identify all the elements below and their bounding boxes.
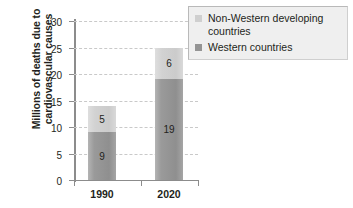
- legend-item-western[interactable]: Western countries: [195, 41, 341, 54]
- x-tick-end: [198, 180, 199, 186]
- legend-label-non-western: Non-Western developingcountries: [208, 12, 323, 37]
- bar-segment-1990-western[interactable]: 9: [88, 132, 116, 180]
- y-tick-label-5: 5: [56, 149, 62, 160]
- chart-container: Millions of deaths due to cardiovascular…: [0, 0, 353, 208]
- bar-segment-1990-non-western[interactable]: 5: [88, 106, 116, 133]
- bar-1990[interactable]: 9 5: [88, 106, 116, 180]
- y-tick-20: 20: [69, 74, 74, 75]
- legend-label-non-western-line1: Non-Western developing: [208, 12, 323, 24]
- legend-swatch-non-western-icon: [195, 15, 202, 22]
- chart-legend: Non-Western developingcountries Western …: [188, 6, 348, 60]
- legend-swatch-western-icon: [195, 44, 202, 51]
- y-tick-15: 15: [69, 101, 74, 102]
- gridline-30: [74, 21, 198, 22]
- x-tick-start: [74, 180, 75, 186]
- x-axis-label-2020: 2020: [157, 188, 180, 200]
- bar-segment-2020-non-western[interactable]: 6: [155, 48, 183, 80]
- y-tick-label-0: 0: [56, 176, 62, 187]
- y-tick-25: 25: [69, 48, 74, 49]
- y-axis-title-line1: Millions of deaths due to: [30, 9, 43, 130]
- y-tick-label-10: 10: [51, 123, 62, 134]
- legend-item-non-western[interactable]: Non-Western developingcountries: [195, 12, 341, 37]
- x-tick-middle: [141, 180, 142, 186]
- y-tick-10: 10: [69, 127, 74, 128]
- plot-area: 30 25 20 15 10 5 0 9 5: [74, 21, 198, 180]
- x-axis-label-1990: 1990: [90, 188, 113, 200]
- y-tick-label-15: 15: [51, 96, 62, 107]
- legend-label-non-western-line2: countries: [208, 25, 251, 37]
- y-tick-30: 30: [69, 21, 74, 22]
- y-tick-label-25: 25: [51, 43, 62, 54]
- bar-2020[interactable]: 19 6: [155, 48, 183, 181]
- bar-segment-2020-western[interactable]: 19: [155, 79, 183, 180]
- y-tick-label-30: 30: [51, 17, 62, 28]
- y-tick-5: 5: [69, 154, 74, 155]
- y-tick-label-20: 20: [51, 70, 62, 81]
- legend-label-western: Western countries: [208, 41, 292, 54]
